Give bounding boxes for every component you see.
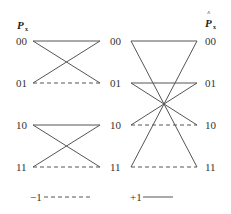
middle-row-labels: 00 01 10 11 <box>110 35 122 173</box>
right-label-00: 00 <box>205 35 217 47</box>
left-row-labels: 00 01 10 11 <box>16 35 28 173</box>
left-panel-title: P x <box>17 19 28 32</box>
right-title-p: P <box>205 17 212 29</box>
legend: −1 +1 <box>30 191 173 203</box>
right-label-11: 11 <box>205 161 216 173</box>
mid-label-00: 00 <box>110 35 122 47</box>
right-row-labels: 00 01 10 11 <box>205 35 217 173</box>
left-label-01: 01 <box>16 77 27 89</box>
left-label-10: 10 <box>16 119 28 131</box>
left-label-00: 00 <box>16 35 28 47</box>
left-butterflies <box>33 41 100 167</box>
mid-label-10: 10 <box>110 119 122 131</box>
legend-negative-label: −1 <box>30 191 42 203</box>
left-label-11: 11 <box>16 161 27 173</box>
diagram-canvas: P x 00 01 10 11 00 01 10 11 ^ <box>0 0 231 214</box>
right-butterflies <box>131 41 197 167</box>
right-label-01: 01 <box>205 77 216 89</box>
legend-positive-label: +1 <box>130 191 142 203</box>
left-title-sub: x <box>25 26 28 32</box>
right-panel-title: ^ P x <box>205 10 216 30</box>
right-title-hat: ^ <box>207 10 211 16</box>
left-title-p: P <box>17 19 24 31</box>
permutation-diagram: P x 00 01 10 11 00 01 10 11 ^ <box>0 0 231 214</box>
right-label-10: 10 <box>205 119 217 131</box>
mid-label-01: 01 <box>110 77 121 89</box>
mid-label-11: 11 <box>110 161 121 173</box>
right-title-sub: x <box>213 24 216 30</box>
